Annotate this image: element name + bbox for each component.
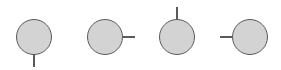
stick-line-down	[33, 54, 35, 67]
diagram-canvas	[0, 0, 281, 70]
pin-stick-right	[87, 19, 123, 55]
circle-node	[159, 19, 195, 55]
stick-line-right	[122, 36, 135, 38]
stick-line-left	[220, 36, 232, 38]
stick-line-up	[176, 7, 178, 19]
pin-stick-down	[16, 19, 52, 55]
circle-node	[87, 19, 123, 55]
pin-stick-up	[159, 19, 195, 55]
circle-node	[232, 19, 268, 55]
circle-node	[16, 19, 52, 55]
pin-stick-left	[232, 19, 268, 55]
